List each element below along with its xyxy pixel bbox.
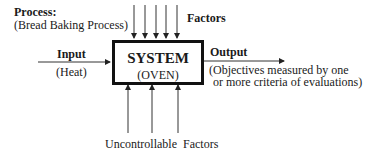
uncontrollable-factor-arrows bbox=[128, 85, 178, 133]
controllable-factor-arrows bbox=[134, 5, 177, 38]
system-box: SYSTEM (OVEN) bbox=[112, 40, 204, 85]
input-label: Input bbox=[57, 48, 86, 60]
input-sublabel: (Heat) bbox=[56, 66, 87, 78]
output-description-line2: or more criteria of evaluations) bbox=[213, 76, 362, 88]
output-label: Output bbox=[210, 46, 247, 58]
process-description: (Bread Baking Process) bbox=[14, 19, 128, 31]
system-title: SYSTEM bbox=[115, 50, 201, 67]
process-label: Process: bbox=[14, 6, 56, 18]
uncontrollable-factors-label: Uncontrollable Factors bbox=[105, 138, 218, 150]
system-subtitle: (OVEN) bbox=[115, 68, 201, 83]
controllable-factors-label: Factors bbox=[187, 12, 226, 24]
